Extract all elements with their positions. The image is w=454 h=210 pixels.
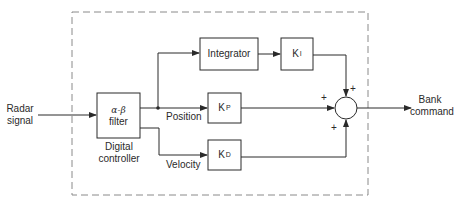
position-label: Position	[166, 111, 202, 123]
integrator-feed-line	[158, 53, 199, 108]
sum-sign-top: +	[350, 84, 356, 94]
kp-subscript: P	[226, 102, 231, 114]
output-label: Bank command	[410, 94, 450, 118]
kp-base: K	[218, 102, 225, 114]
output-label-line2: command	[410, 106, 450, 118]
summing-junction	[335, 97, 357, 119]
kp-label: KP	[208, 93, 241, 123]
input-label-line2: signal	[3, 115, 37, 127]
alpha-beta-filter-label: α-β filter	[97, 93, 140, 138]
filter-label-line2: filter	[109, 116, 128, 128]
output-label-line1: Bank	[410, 94, 450, 106]
kd-base: K	[218, 149, 225, 161]
input-label-line1: Radar	[3, 103, 37, 115]
velocity-label: Velocity	[166, 159, 200, 171]
input-label: Radar signal	[3, 103, 37, 127]
integrator-label: Integrator	[200, 38, 258, 70]
kd-label: KD	[208, 140, 241, 170]
digital-controller-caption: Digital controller	[88, 141, 150, 165]
filter-label-line1: α-β	[111, 104, 125, 116]
ki-label: KI	[281, 38, 313, 70]
sum-sign-left: +	[321, 93, 327, 103]
velocity-line	[140, 128, 207, 155]
caption-line2: controller	[88, 153, 150, 165]
ki-to-sum-line	[313, 55, 346, 96]
sum-sign-bottom: +	[331, 123, 337, 133]
ki-subscript: I	[300, 48, 302, 60]
caption-line1: Digital	[88, 141, 150, 153]
kd-subscript: D	[226, 149, 231, 161]
ki-base: K	[292, 48, 299, 60]
